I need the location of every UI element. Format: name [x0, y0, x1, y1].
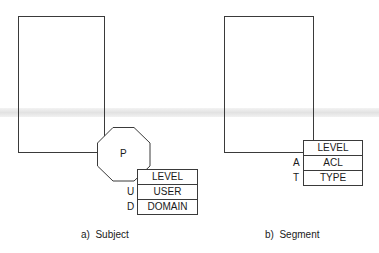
subject-attributes-table: LEVEL U USER D DOMAIN [127, 169, 198, 215]
row-value: LEVEL [304, 141, 363, 156]
row-key: U [127, 185, 138, 200]
row-value: TYPE [304, 171, 363, 186]
subject-box [19, 17, 105, 153]
process-label: P [120, 148, 127, 159]
subject-caption: a) Subject [81, 229, 129, 240]
table-row: LEVEL [127, 170, 198, 185]
row-value: USER [138, 185, 198, 200]
row-value: ACL [304, 156, 363, 171]
diagram-shapes [0, 0, 379, 253]
row-key: A [293, 156, 304, 171]
row-value: DOMAIN [138, 200, 198, 215]
row-value: LEVEL [138, 170, 198, 185]
segment-box [225, 17, 314, 153]
segment-caption: b) Segment [265, 229, 319, 240]
row-key: T [293, 171, 304, 186]
row-key [127, 170, 138, 185]
table-row: A ACL [293, 156, 363, 171]
table-row: D DOMAIN [127, 200, 198, 215]
row-key [293, 141, 304, 156]
row-key: D [127, 200, 138, 215]
table-row: T TYPE [293, 171, 363, 186]
table-row: LEVEL [293, 141, 363, 156]
segment-attributes-table: LEVEL A ACL T TYPE [293, 140, 363, 186]
table-row: U USER [127, 185, 198, 200]
